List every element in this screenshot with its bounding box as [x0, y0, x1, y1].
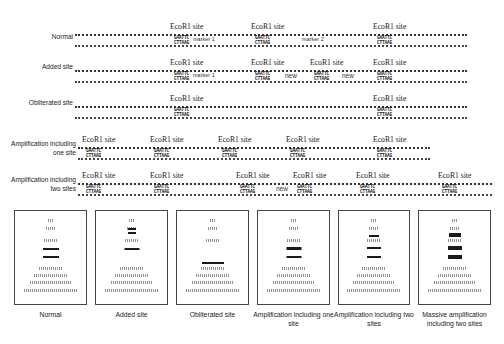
dna-smear	[210, 219, 216, 222]
dna-smear	[267, 289, 321, 292]
gel-band	[128, 228, 136, 230]
gel-label-added: Added site	[90, 310, 172, 319]
dna-smear	[367, 239, 381, 242]
ecor1-sequence: GAATTCCTTAAG	[255, 36, 270, 45]
gel-lane-amp-one	[257, 210, 330, 305]
marker-label: marker 1	[193, 36, 215, 42]
gel-band	[448, 255, 462, 259]
dna-smear	[44, 239, 58, 242]
ecor1-site-label: EcoR1 site	[251, 57, 284, 67]
gel-lane-added	[95, 210, 168, 305]
gel-label-amp-two: Amplification including two sites	[333, 310, 415, 328]
bottom-strand	[75, 117, 467, 119]
dna-smear	[443, 267, 467, 270]
dna-smear	[369, 227, 379, 230]
ecor1-site-label: EcoR1 site	[373, 93, 406, 103]
ecor1-site-label: EcoR1 site	[218, 134, 251, 144]
dna-smear	[428, 289, 482, 292]
gel-label-amp-one: Amplification including one site	[252, 310, 334, 328]
ecor1-site-label: EcoR1 site	[373, 134, 406, 144]
row-label: Obliterated site	[0, 98, 73, 107]
gel-label-obliterated: Obliterated site	[171, 310, 253, 319]
row-label: Amplification including one site	[2, 139, 76, 157]
ecor1-sequence: GAATTCCTTAAG	[442, 185, 457, 194]
ecor1-site-label: EcoR1 site	[356, 170, 389, 180]
gel-band	[448, 246, 462, 250]
ecor1-sequence: GAATTCCTTAAG	[377, 108, 392, 117]
new-site-note: new	[276, 185, 288, 192]
ecor1-sequence: GAATTCCTTAAG	[377, 36, 392, 45]
dna-smear	[125, 239, 139, 242]
ecor1-sequence: GAATTCCTTAAG	[154, 185, 169, 194]
dna-smear	[353, 281, 395, 284]
ecor1-sequence: GAATTCCTTAAG	[240, 185, 255, 194]
gel-band	[369, 235, 379, 237]
gel-band	[202, 262, 224, 264]
ecor1-sequence: GAATTCCTTAAG	[174, 72, 189, 81]
gel-label-normal: Normal	[9, 310, 91, 319]
ecor1-site-label: EcoR1 site	[170, 93, 203, 103]
bottom-strand	[75, 45, 467, 47]
dna-smear	[277, 274, 311, 277]
dna-smear	[115, 274, 149, 277]
ecor1-sequence: GAATTCCTTAAG	[255, 72, 270, 81]
gel-lane-obliterated	[176, 210, 249, 305]
dna-smear	[291, 219, 297, 222]
ecor1-site-label: EcoR1 site	[251, 21, 284, 31]
ecor1-sequence: GAATTCCTTAAG	[360, 185, 375, 194]
dna-smear	[196, 274, 230, 277]
ecor1-site-label: EcoR1 site	[170, 57, 203, 67]
ecor1-sequence: GAATTCCTTAAG	[377, 149, 392, 158]
dna-smear	[48, 219, 54, 222]
dna-smear	[450, 227, 460, 230]
new-site-note: new	[342, 72, 354, 79]
top-strand	[75, 106, 467, 108]
ecor1-site-label: EcoR1 site	[82, 170, 115, 180]
dna-smear	[273, 281, 315, 284]
ecor1-site-label: EcoR1 site	[293, 170, 326, 180]
ecor1-sequence: GAATTCCTTAAG	[377, 72, 392, 81]
ecor1-site-label: EcoR1 site	[286, 134, 319, 144]
top-strand	[75, 34, 467, 36]
dna-smear	[192, 281, 234, 284]
dna-smear	[30, 281, 72, 284]
dna-smear	[289, 227, 299, 230]
gel-band	[367, 256, 381, 258]
gel-band	[367, 247, 381, 249]
dna-smear	[208, 227, 218, 230]
ecor1-sequence: GAATTCCTTAAG	[86, 149, 101, 158]
dna-smear	[201, 267, 225, 270]
new-site-note: new	[285, 72, 297, 79]
dna-smear	[434, 281, 476, 284]
gel-band	[128, 232, 136, 234]
dna-smear	[282, 267, 306, 270]
ecor1-site-label: EcoR1 site	[438, 170, 471, 180]
gel-lane-massive	[418, 210, 491, 305]
ecor1-sequence: GAATTCCTTAAG	[314, 72, 329, 81]
dna-smear	[287, 239, 301, 242]
dna-smear	[186, 289, 240, 292]
marker-label: marker 2	[302, 36, 324, 42]
bottom-strand	[75, 81, 467, 83]
gel-band	[124, 248, 139, 250]
gel-lane-amp-two	[338, 210, 410, 305]
ecor1-sequence: GAATTCCTTAAG	[86, 185, 101, 194]
dna-smear	[24, 289, 78, 292]
ecor1-site-label: EcoR1 site	[310, 57, 343, 67]
dna-smear	[129, 219, 135, 222]
ecor1-sequence: GAATTCCTTAAG	[297, 185, 312, 194]
gel-band	[43, 256, 59, 258]
dna-smear	[34, 274, 68, 277]
gel-lane-normal	[14, 210, 87, 305]
dna-smear	[448, 239, 462, 242]
dna-smear	[371, 219, 377, 222]
dna-smear	[105, 289, 159, 292]
dna-smear	[39, 267, 63, 270]
marker-label: marker 1	[193, 72, 215, 78]
dna-smear	[120, 267, 144, 270]
dna-smear	[438, 274, 472, 277]
dna-smear	[111, 281, 153, 284]
ecor1-sequence: GAATTCCTTAAG	[174, 108, 189, 117]
top-strand	[75, 70, 467, 72]
dna-smear	[206, 239, 220, 242]
